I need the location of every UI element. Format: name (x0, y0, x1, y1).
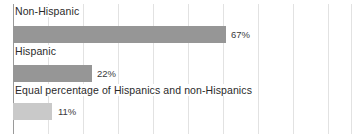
gridline (293, 4, 294, 134)
bar (13, 26, 226, 43)
bar-category-label: Non-Hispanic (15, 5, 81, 17)
bar-category-label: Hispanic (15, 45, 58, 57)
bar-category-label: Equal percentage of Hispanics and non-Hi… (15, 84, 254, 96)
gridline (328, 4, 329, 134)
bar-chart: Non-Hispanic67%Hispanic22%Equal percenta… (0, 0, 353, 138)
bar (13, 65, 92, 82)
gridline (118, 4, 119, 134)
plot-area: Non-Hispanic67%Hispanic22%Equal percenta… (0, 0, 353, 138)
bar-value-label: 67% (230, 29, 251, 40)
gridline (223, 4, 224, 134)
bar (13, 103, 52, 120)
gridline (351, 4, 352, 134)
gridline (153, 4, 154, 134)
bar-value-label: 11% (57, 106, 77, 117)
gridline (188, 4, 189, 134)
bar-value-label: 22% (96, 68, 117, 79)
gridline (258, 4, 259, 134)
